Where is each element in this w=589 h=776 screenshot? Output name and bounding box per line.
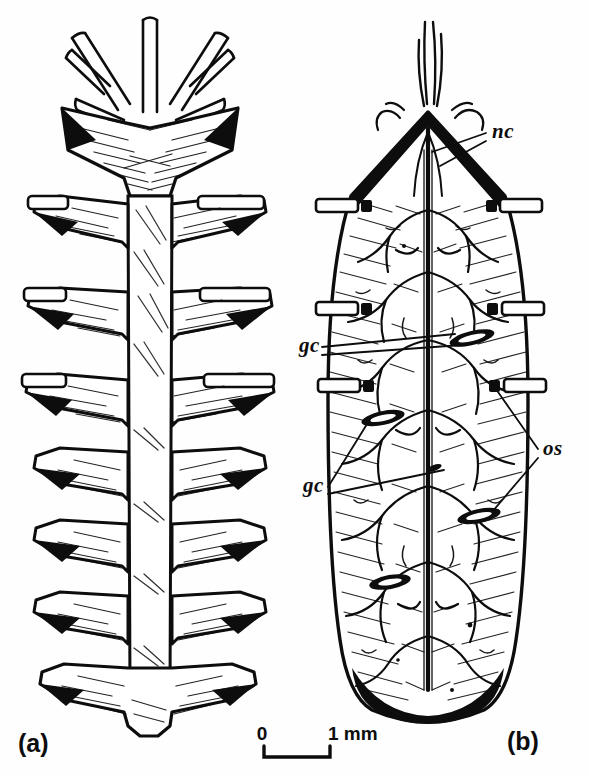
tube-right-1 [198,196,264,209]
annotation-os: os [543,436,563,460]
tube-left-3 [22,374,66,387]
panel-label-b: (b) [507,727,539,755]
figure-canvas: nc gc gc os (a) (b) 0 1 mm [0,0,589,776]
tube-right-3 [204,374,274,387]
opening-right-1 [500,199,542,212]
panel-label-a: (a) [18,729,49,757]
illustration-svg: nc gc gc os (a) (b) 0 1 mm [0,0,589,776]
opening-left-1 [316,199,358,212]
tube-left-1 [28,196,68,209]
annotation-nc: nc [492,119,514,143]
opening-left-3 [318,379,360,392]
annotation-gc-upper: gc [298,333,320,357]
opening-right-3 [504,379,546,392]
tube-right-2 [200,288,270,301]
opening-right-2 [502,302,544,315]
tube-left-2 [24,288,66,301]
scale-length-label: 1 mm [328,723,378,744]
annotation-gc-lower: gc [302,473,324,497]
opening-left-2 [316,302,358,315]
scale-zero-label: 0 [257,723,268,744]
